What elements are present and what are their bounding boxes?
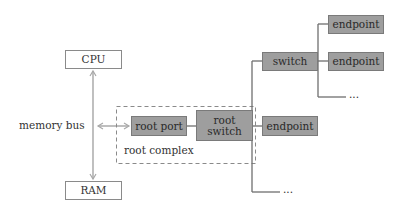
switch-node: switch	[262, 52, 318, 71]
root-port-node: root port	[131, 116, 187, 136]
root-switch-node: root switch	[196, 110, 253, 141]
endpoint-top-node: endpoint	[328, 15, 384, 34]
root-switch-line1: root	[214, 115, 236, 126]
endpoint-root-node: endpoint	[262, 116, 318, 136]
root-complex-label: root complex	[124, 144, 194, 156]
ram-node: RAM	[65, 181, 122, 200]
ellipsis-root: ...	[283, 183, 293, 195]
memory-bus-label: memory bus	[19, 119, 85, 131]
root-switch-line2: switch	[207, 126, 242, 137]
endpoint-mid-node: endpoint	[328, 52, 384, 71]
ellipsis-switch: ...	[349, 88, 359, 100]
cpu-node: CPU	[65, 50, 122, 69]
